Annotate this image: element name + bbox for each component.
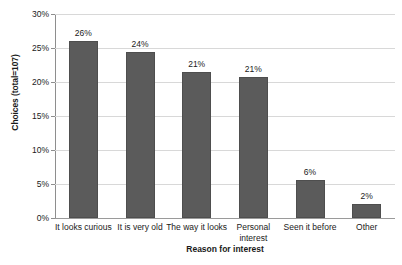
y-axis-tick-label: 20% [3,77,49,87]
x-axis-tick-label: It looks curious [52,222,115,233]
y-axis-tick-mark [51,48,55,49]
gridline [55,150,395,151]
x-axis-tick-label: Seen it before [279,222,342,233]
gridline [55,218,395,219]
bar[interactable] [126,52,155,218]
y-axis-tick-label: 5% [3,179,49,189]
y-axis-tick-mark [51,184,55,185]
gridline [55,82,395,83]
y-axis-tick-label: 25% [3,43,49,53]
y-axis-tick-label: 10% [3,145,49,155]
bar-value-label: 24% [131,39,148,49]
y-axis-tick-label: 0% [3,213,49,223]
y-axis-tick-mark [51,82,55,83]
bar-group: 21% [182,14,211,218]
bar[interactable] [69,41,98,218]
y-axis-tick-mark [51,14,55,15]
gridline [55,116,395,117]
gridline [55,184,395,185]
gridline [55,14,395,15]
x-axis-tick-label: The way it looks [165,222,228,233]
x-axis-tick-label: Other [335,222,398,233]
bar[interactable] [352,204,381,218]
y-axis-tick-mark [51,116,55,117]
y-axis-tick-mark [51,218,55,219]
y-axis-tick-label: 30% [3,9,49,19]
bar-value-label: 6% [304,167,316,177]
bar-group: 6% [296,14,325,218]
x-axis-tick-label: Personal interest [222,222,285,243]
x-axis-tick-label: It is very old [109,222,172,233]
bar-group: 21% [239,14,268,218]
bar[interactable] [296,180,325,218]
bar-value-label: 26% [75,28,92,38]
bar[interactable] [239,77,268,218]
y-axis-tick-label: 15% [3,111,49,121]
x-axis-title: Reason for interest [55,244,395,254]
plot-area: 26%24%21%21%6%2% [55,14,395,218]
y-axis-tick-mark [51,150,55,151]
bar-chart: Choices (total=107) 0%5%10%15%20%25%30% … [0,0,402,265]
y-axis-tick-labels: 0%5%10%15%20%25%30% [0,0,49,265]
bar-group: 26% [69,14,98,218]
bar-group: 2% [352,14,381,218]
bar-value-label: 21% [245,64,262,74]
bar-group: 24% [126,14,155,218]
bar-value-label: 2% [361,191,373,201]
gridline [55,48,395,49]
bar-value-label: 21% [188,59,205,69]
bar[interactable] [182,72,211,218]
